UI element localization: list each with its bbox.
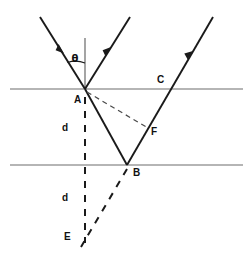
label-point-b: B bbox=[133, 167, 140, 178]
slanted-dashed-b-to-e bbox=[81, 169, 127, 247]
emergent-ray-b-to-c bbox=[127, 17, 213, 165]
label-point-f: F bbox=[151, 126, 157, 137]
label-point-c: C bbox=[157, 74, 164, 85]
label-thickness-lower: d bbox=[62, 192, 68, 203]
label-point-e: E bbox=[64, 231, 71, 242]
optics-reflection-diagram: θ A B C F E d d bbox=[0, 0, 252, 254]
label-theta: θ bbox=[72, 53, 79, 64]
label-point-a: A bbox=[74, 94, 81, 105]
label-thickness-upper: d bbox=[62, 122, 68, 133]
diagram-root: θ A B C F E d d bbox=[0, 0, 252, 254]
refracted-ray-a-to-b bbox=[85, 89, 127, 165]
